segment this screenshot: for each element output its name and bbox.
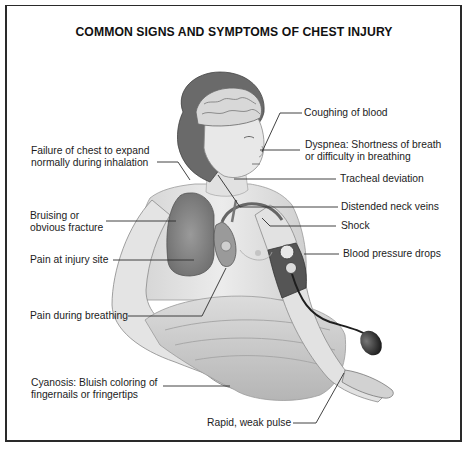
- label-line: obvious fracture: [30, 222, 103, 234]
- label-coughing-blood: Coughing of blood: [304, 107, 388, 119]
- label-line: Rapid, weak pulse: [207, 417, 291, 429]
- leader-coughing: [262, 113, 302, 152]
- label-line: normally during inhalation: [31, 157, 150, 169]
- label-line: fingernails or fringertips: [31, 389, 157, 401]
- label-line: Tracheal deviation: [340, 173, 424, 185]
- label-line: or difficulty in breathing: [305, 151, 441, 163]
- label-bruising: Bruising or obvious fracture: [30, 210, 103, 234]
- label-distended-neck-veins: Distended neck veins: [341, 201, 439, 213]
- label-failure-to-expand: Failure of chest to expand normally duri…: [31, 145, 150, 169]
- label-line: Distended neck veins: [341, 201, 439, 213]
- label-pain-injury-site: Pain at injury site: [30, 254, 108, 266]
- label-line: Failure of chest to expand: [31, 145, 150, 157]
- label-line: Shock: [341, 220, 370, 232]
- lung: [167, 193, 214, 276]
- label-line: Blood pressure drops: [343, 248, 441, 260]
- label-shock: Shock: [341, 220, 370, 232]
- label-line: Cyanosis: Bluish coloring of: [31, 377, 157, 389]
- label-line: Pain at injury site: [30, 254, 108, 266]
- leader-failure: [157, 162, 190, 180]
- label-line: Dyspnea: Shortness of breath: [305, 139, 441, 151]
- label-line: Pain during breathing: [30, 310, 128, 322]
- label-tracheal-deviation: Tracheal deviation: [340, 173, 424, 185]
- label-line: Coughing of blood: [304, 107, 388, 119]
- label-cyanosis: Cyanosis: Bluish coloring of fingernails…: [31, 377, 157, 401]
- label-rapid-weak-pulse: Rapid, weak pulse: [207, 417, 291, 429]
- label-blood-pressure-drops: Blood pressure drops: [343, 248, 441, 260]
- label-pain-breathing: Pain during breathing: [30, 310, 128, 322]
- label-dyspnea: Dyspnea: Shortness of breath or difficul…: [305, 139, 441, 163]
- label-line: Bruising or: [30, 210, 103, 222]
